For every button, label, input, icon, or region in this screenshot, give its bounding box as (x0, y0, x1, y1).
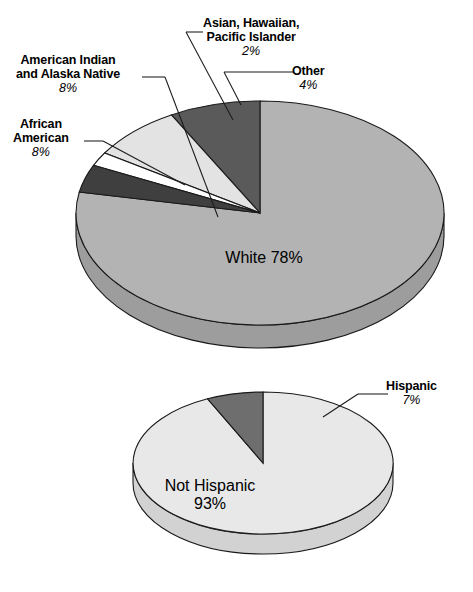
label-not-hispanic-pct: 93% (194, 495, 226, 512)
label-american-indian-pct: 8% (16, 81, 120, 95)
label-other: Other 4% (292, 64, 325, 92)
race-pie-slices (76, 101, 444, 325)
label-asian-line1: Asian, Hawaiian, (203, 16, 299, 30)
label-asian-hawaiian-pacific-islander: Asian, Hawaiian, Pacific Islander 2% (203, 16, 299, 58)
label-not-hispanic-name: Not Hispanic (165, 477, 256, 494)
label-hispanic-pct: 7% (386, 393, 437, 407)
label-hispanic-name: Hispanic (386, 379, 437, 393)
label-african-american-pct: 8% (13, 145, 69, 159)
ethnicity-pie-chart (133, 392, 393, 554)
label-african-american: African American 8% (13, 117, 69, 159)
label-white-name: White (225, 249, 266, 266)
label-other-pct: 4% (292, 78, 325, 92)
label-african-american-line1: African (13, 117, 69, 131)
race-pie-chart (76, 32, 444, 348)
label-american-indian-line2: and Alaska Native (16, 67, 120, 81)
label-american-indian-and-alaska-native: American Indian and Alaska Native 8% (16, 53, 120, 95)
label-american-indian-line1: American Indian (16, 53, 120, 67)
label-white-pct: 78% (271, 249, 303, 266)
label-asian-pct: 2% (203, 44, 299, 58)
label-african-american-line2: American (13, 131, 69, 145)
label-asian-line2: Pacific Islander (203, 30, 299, 44)
label-other-name: Other (292, 64, 325, 78)
leader-line-other-b (224, 72, 241, 105)
label-not-hispanic: Not Hispanic 93% (155, 477, 265, 513)
label-hispanic: Hispanic 7% (386, 379, 437, 407)
label-white: White 78% (222, 249, 306, 267)
